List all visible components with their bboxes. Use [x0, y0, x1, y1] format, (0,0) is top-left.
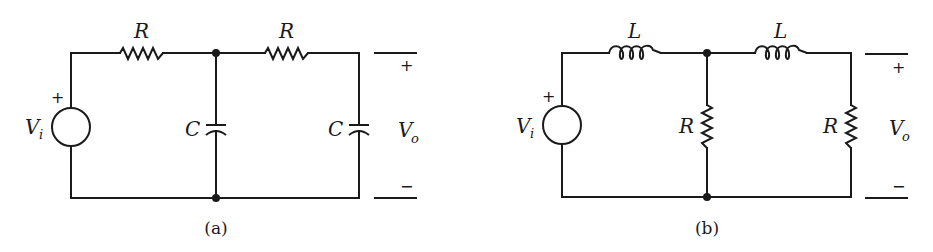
- source-plus-sign: +: [51, 88, 64, 107]
- junction-node: [212, 49, 220, 57]
- inductor-icon: [755, 46, 807, 59]
- circuit-a: + V i R R C C + − V o (a): [25, 19, 419, 238]
- caption-b: (b): [695, 218, 719, 238]
- inductor-label: L: [627, 19, 641, 43]
- output-plus-sign: +: [892, 58, 905, 77]
- resistor-icon: [120, 48, 163, 59]
- caption-a: (a): [204, 218, 227, 238]
- circuit-figure: + V i R R C C + − V o (a): [0, 0, 933, 252]
- output-subscript: o: [411, 131, 419, 146]
- capacitor-label: C: [328, 117, 343, 141]
- source-subscript: i: [39, 127, 43, 142]
- junction-node: [703, 49, 711, 57]
- output-minus-sign: −: [892, 177, 905, 196]
- source-plus-sign: +: [542, 87, 555, 106]
- resistor-icon: [846, 105, 856, 148]
- capacitor-label: C: [185, 117, 200, 141]
- inductor-label: L: [773, 19, 787, 43]
- voltage-source-icon: [543, 106, 581, 144]
- inductor-icon: [609, 46, 661, 59]
- output-subscript: o: [902, 129, 910, 144]
- resistor-label: R: [278, 19, 294, 43]
- resistor-icon: [702, 105, 712, 148]
- junction-node: [703, 193, 711, 201]
- source-subscript: i: [530, 126, 534, 141]
- resistor-icon: [265, 48, 308, 59]
- resistor-label: R: [678, 114, 694, 138]
- output-minus-sign: −: [400, 177, 413, 196]
- voltage-source-icon: [52, 108, 90, 146]
- junction-node: [212, 194, 220, 202]
- circuit-b: + V i L L R R + − V o (b): [516, 19, 910, 238]
- resistor-label: R: [822, 114, 838, 138]
- output-plus-sign: +: [400, 56, 413, 75]
- resistor-label: R: [133, 19, 149, 43]
